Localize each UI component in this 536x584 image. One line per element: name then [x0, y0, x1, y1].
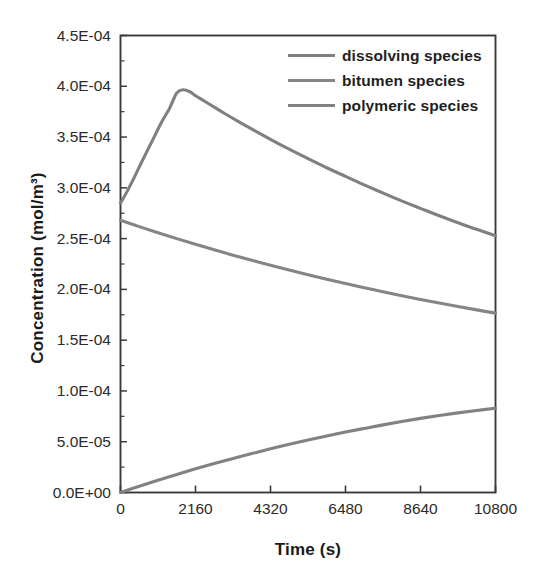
- legend-item: polymeric species: [288, 94, 482, 117]
- chart-legend: dissolving speciesbitumen speciespolymer…: [288, 44, 482, 117]
- legend-item: dissolving species: [288, 44, 482, 67]
- legend-line-swatch: [288, 104, 335, 107]
- series-line-polymeric: [121, 408, 496, 492]
- legend-item: bitumen species: [288, 69, 482, 92]
- legend-item-label: bitumen species: [342, 72, 465, 90]
- legend-line-swatch: [288, 79, 335, 82]
- series-line-bitumen: [121, 220, 496, 313]
- legend-item-label: polymeric species: [342, 97, 478, 115]
- chart-figure: Concentration (mol/m³) 0.0E+005.0E-051.0…: [0, 0, 536, 584]
- legend-line-swatch: [288, 54, 335, 57]
- legend-item-label: dissolving species: [342, 47, 482, 65]
